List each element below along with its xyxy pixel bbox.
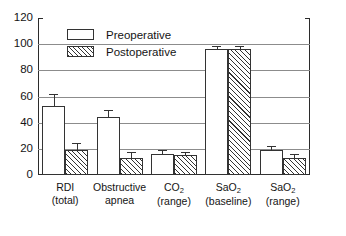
error-bar bbox=[271, 147, 272, 150]
y-axis-tick-label: 120 bbox=[0, 12, 33, 24]
y-axis-tick-label: 20 bbox=[0, 143, 33, 155]
error-bar-cap bbox=[181, 152, 190, 153]
error-bar bbox=[185, 153, 186, 156]
bar-preoperative bbox=[97, 117, 120, 175]
legend-label: Postoperative bbox=[106, 46, 176, 58]
error-bar-cap bbox=[212, 46, 221, 47]
y-axis-tick-label: 0 bbox=[0, 169, 33, 181]
error-bar bbox=[294, 155, 295, 158]
y-axis-tick-label: 100 bbox=[0, 38, 33, 50]
error-bar bbox=[77, 144, 78, 151]
error-bar bbox=[108, 111, 109, 118]
error-bar-cap bbox=[158, 150, 167, 151]
bar-group bbox=[256, 18, 310, 175]
bar-slot bbox=[283, 18, 306, 175]
error-bar-cap bbox=[267, 146, 276, 147]
bar-postoperative bbox=[228, 49, 251, 175]
error-bar-cap bbox=[290, 154, 299, 155]
legend-item: Postoperative bbox=[67, 44, 176, 59]
category-label-line1: SaO2 bbox=[246, 181, 320, 195]
bar-postoperative bbox=[283, 158, 306, 175]
y-axis-tick-label: 60 bbox=[0, 91, 33, 103]
bar-slot bbox=[228, 18, 251, 175]
error-bar bbox=[217, 47, 218, 49]
y-axis-tick-label: 40 bbox=[0, 117, 33, 129]
category-label-subscript: 2 bbox=[291, 186, 295, 195]
bar-preoperative bbox=[151, 154, 174, 175]
bar-preoperative bbox=[260, 150, 283, 175]
bar-preoperative bbox=[42, 106, 65, 175]
legend-swatch bbox=[67, 29, 94, 40]
legend-item: Preoperative bbox=[67, 27, 176, 42]
bar-slot bbox=[174, 18, 197, 175]
category-label-subscript: 2 bbox=[180, 186, 184, 195]
x-axis-category-label: SaO2(range) bbox=[246, 181, 320, 208]
error-bar bbox=[54, 95, 55, 105]
legend-swatch bbox=[67, 46, 94, 57]
bar-slot bbox=[205, 18, 228, 175]
error-bar-cap bbox=[72, 143, 81, 144]
error-bar-cap bbox=[127, 152, 136, 153]
error-bar-cap bbox=[49, 94, 58, 95]
x-axis-category-labels: RDI(total)ObstructiveapneaCO2(range)SaO2… bbox=[38, 181, 310, 221]
error-bar-cap bbox=[104, 110, 113, 111]
error-bar bbox=[162, 151, 163, 154]
category-label-line2: (range) bbox=[246, 195, 320, 208]
error-bar bbox=[240, 47, 241, 49]
error-bar-cap bbox=[235, 46, 244, 47]
bar-slot bbox=[42, 18, 65, 175]
error-bar bbox=[131, 153, 132, 158]
bar-group bbox=[201, 18, 255, 175]
bar-preoperative bbox=[205, 49, 228, 175]
legend-label: Preoperative bbox=[106, 29, 171, 41]
bar-postoperative bbox=[65, 150, 88, 175]
bar-chart: 020406080100120 PreoperativePostoperativ… bbox=[0, 0, 346, 236]
category-label-subscript: 2 bbox=[237, 186, 241, 195]
bar-postoperative bbox=[174, 155, 197, 175]
legend: PreoperativePostoperative bbox=[67, 27, 176, 61]
y-axis-tick-label: 80 bbox=[0, 64, 33, 76]
bar-postoperative bbox=[120, 158, 143, 175]
bar-slot bbox=[260, 18, 283, 175]
